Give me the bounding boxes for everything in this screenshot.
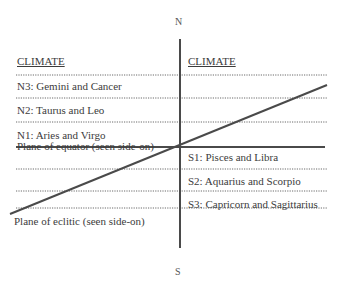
north-label: N <box>175 16 182 28</box>
right-climate-header: CLIMATE <box>188 55 236 67</box>
equator-plane-label: Plane of equator (seen side-on) <box>17 140 154 152</box>
zone-n2-label: N2: Taurus and Leo <box>17 104 104 116</box>
zone-s3-label: S3: Capricorn and Sagittarius <box>188 198 318 210</box>
south-label: S <box>175 266 181 278</box>
left-climate-header: CLIMATE <box>17 55 65 67</box>
climate-diagram: N S CLIMATE CLIMATE N3: Gemini and Cance… <box>0 0 342 289</box>
zone-n3-label: N3: Gemini and Cancer <box>17 80 122 92</box>
ecliptic-plane-label: Plane of eclitic (seen side-on) <box>14 215 145 227</box>
zone-s1-label: S1: Pisces and Libra <box>188 151 278 163</box>
zone-s2-label: S2: Aquarius and Scorpio <box>188 175 301 187</box>
